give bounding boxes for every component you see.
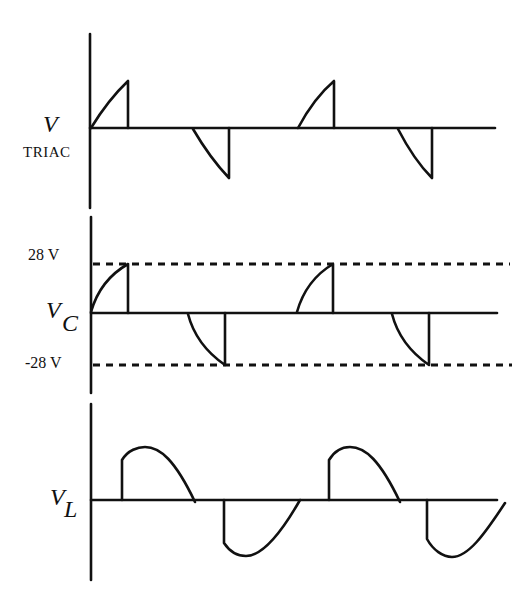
v-triac-neg-pulse-1 [193, 128, 229, 178]
v-l-label-main: V [50, 484, 65, 511]
v-c-ref-label-plus: 28 V [28, 246, 59, 264]
v-l-pos-pulse-1 [122, 447, 195, 502]
v-triac-pos-pulse-2 [298, 81, 334, 128]
v-l-label-sub: L [64, 496, 77, 523]
v-triac-pos-pulse-1 [91, 81, 128, 128]
panel-v-triac [90, 34, 495, 208]
v-l-neg-pulse-2 [427, 500, 505, 557]
v-triac-label-sub: TRIAC [23, 144, 71, 161]
v-triac-label-main: V [43, 111, 58, 138]
panel-v-l [91, 404, 505, 580]
v-c-neg-pulse-2 [392, 313, 429, 365]
v-triac-neg-pulse-2 [398, 128, 432, 178]
waveform-canvas [0, 0, 530, 610]
v-c-pos-pulse-2 [297, 264, 333, 313]
v-c-ref-label-minus: -28 V [25, 354, 62, 372]
v-c-label-main: V [46, 297, 61, 324]
v-c-label-sub: C [62, 310, 78, 337]
triac-waveform-diagram: V TRIAC 28 V V C -28 V V L [0, 0, 530, 610]
panel-v-c [91, 217, 512, 393]
v-l-neg-pulse-1 [224, 500, 300, 556]
v-c-pos-pulse-1 [91, 264, 128, 313]
v-l-pos-pulse-2 [329, 447, 400, 502]
v-c-neg-pulse-1 [188, 313, 225, 365]
